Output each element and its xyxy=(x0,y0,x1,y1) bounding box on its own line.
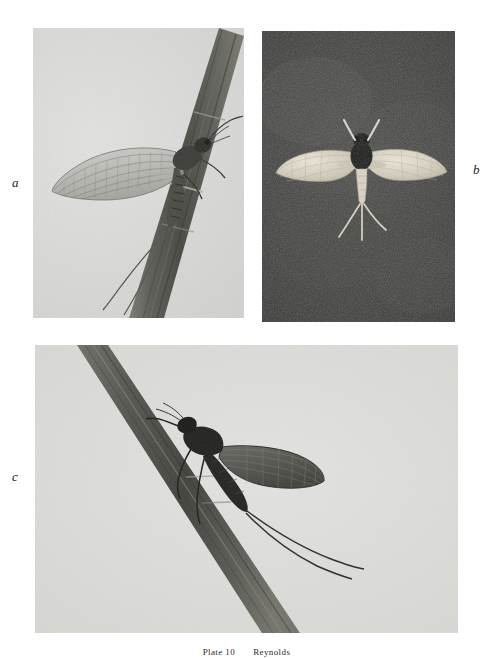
photographic-plate: a b c Plate 10Reynolds xyxy=(0,0,493,658)
panel-letter-a: a xyxy=(12,176,19,189)
panel-letter-b: b xyxy=(473,163,480,176)
photo-panel-a xyxy=(33,28,244,318)
photo-panel-b xyxy=(262,31,455,322)
film-grain xyxy=(35,345,458,633)
panel-b-illustration xyxy=(262,31,455,322)
film-grain xyxy=(33,28,244,318)
panel-c-illustration xyxy=(35,345,458,633)
caption-plate-label: Plate 10 xyxy=(203,647,235,657)
photo-panel-c xyxy=(35,345,458,633)
caption-credit: Reynolds xyxy=(253,647,290,657)
plate-caption: Plate 10Reynolds xyxy=(0,647,493,658)
film-grain xyxy=(262,31,455,322)
panel-a-illustration xyxy=(33,28,244,318)
panel-letter-c: c xyxy=(12,470,18,483)
